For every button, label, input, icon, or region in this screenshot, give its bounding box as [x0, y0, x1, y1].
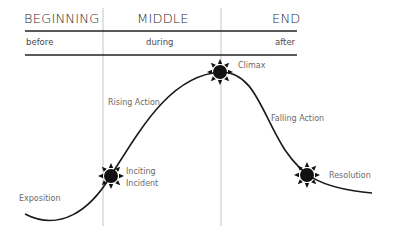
- label-inciting-line1: Inciting: [126, 166, 156, 177]
- label-resolution: Resolution: [329, 170, 371, 181]
- sun-icon: [98, 163, 124, 189]
- sun-icon: [294, 162, 320, 188]
- label-exposition: Exposition: [19, 193, 60, 204]
- section-title-end: END: [272, 11, 301, 26]
- section-sub-before: before: [26, 37, 53, 47]
- label-inciting-line2: Incident: [126, 178, 158, 189]
- sun-icon: [207, 59, 233, 85]
- label-climax: Climax: [238, 60, 265, 71]
- story-arc-curve: [25, 72, 372, 220]
- label-falling-action: Falling Action: [271, 113, 324, 124]
- section-sub-after: after: [275, 37, 295, 47]
- label-rising-action: Rising Action: [108, 97, 160, 108]
- section-sub-during: during: [146, 37, 173, 47]
- section-title-beginning: BEGINNING: [24, 11, 100, 26]
- section-title-middle: MIDDLE: [137, 11, 189, 26]
